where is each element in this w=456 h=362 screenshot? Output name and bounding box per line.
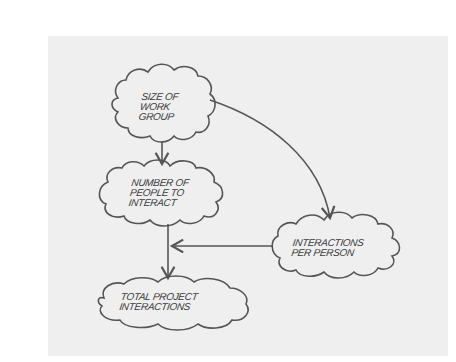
arrow-size-to-interactions — [210, 100, 330, 218]
node-label-interactions-per-person: INTERACTIONS PER PERSON — [291, 238, 365, 258]
node-label-number-of-people: NUMBER OF PEOPLE TO INTERACT — [128, 178, 190, 208]
node-label-size-of-work-group: SIZE OF WORK GROUP — [138, 92, 179, 122]
diagram-canvas: SIZE OF WORK GROUP NUMBER OF PEOPLE TO I… — [0, 0, 456, 362]
node-label-total-project-interactions: TOTAL PROJECT INTERACTIONS — [119, 292, 198, 312]
diagram-graphics — [0, 0, 456, 362]
